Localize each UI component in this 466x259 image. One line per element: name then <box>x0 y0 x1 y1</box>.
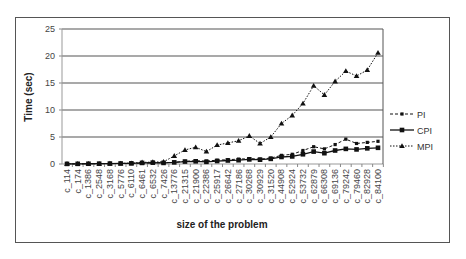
x-tick-label: c_2548 <box>94 169 104 199</box>
small-square-marker <box>323 147 326 150</box>
legend-item-pi: PI <box>390 110 426 120</box>
square-marker <box>322 151 327 156</box>
x-axis-ticks: c_114c_174c_1386c_2548c_3168c_5776c_6110… <box>62 164 383 204</box>
legend-label: CPI <box>417 126 432 136</box>
square-marker <box>268 157 273 162</box>
legend-label: PI <box>417 110 426 120</box>
x-tick-label: c_21315 <box>180 169 190 204</box>
square-marker <box>215 159 220 164</box>
square-marker <box>172 160 177 165</box>
small-square-marker <box>334 143 337 146</box>
x-tick-label: c_82928 <box>362 169 372 204</box>
square-marker <box>236 158 241 163</box>
small-square-marker <box>301 149 304 152</box>
square-marker <box>247 157 252 162</box>
x-tick-label: c_62879 <box>309 169 319 204</box>
square-marker <box>354 147 359 152</box>
triangle-marker <box>364 67 370 72</box>
x-tick-label: c_52924 <box>287 169 297 204</box>
y-axis-title: Time (sec) <box>23 72 34 121</box>
triangle-marker <box>279 121 285 126</box>
square-marker <box>258 157 263 162</box>
square-marker <box>204 160 209 165</box>
square-marker <box>193 159 198 164</box>
square-marker <box>290 154 295 159</box>
triangle-marker <box>343 68 349 73</box>
square-marker <box>279 155 284 160</box>
y-tick-label: 20 <box>45 51 55 61</box>
x-tick-label: c_7426 <box>159 169 169 199</box>
triangle-marker <box>247 133 253 138</box>
square-marker <box>333 148 338 153</box>
y-tick-label: 15 <box>45 78 55 88</box>
square-marker <box>311 149 316 154</box>
triangle-marker <box>300 101 306 106</box>
triangle-marker <box>214 142 220 147</box>
y-tick-label: 10 <box>45 105 55 115</box>
x-tick-label: c_6461 <box>137 169 147 199</box>
x-tick-label: c_66308 <box>319 169 329 204</box>
y-tick-label: 0 <box>50 159 55 169</box>
small-square-marker <box>376 140 379 143</box>
legend-item-cpi: CPI <box>390 126 432 136</box>
series-line <box>67 53 378 164</box>
legend-item-mpi: MPI <box>390 142 433 152</box>
series-line <box>67 148 378 164</box>
legend-label: MPI <box>417 142 433 152</box>
x-axis-title: size of the problem <box>176 219 267 230</box>
x-tick-label: c_6110 <box>126 169 136 198</box>
square-marker <box>301 152 306 157</box>
x-tick-label: c_69136 <box>330 169 340 204</box>
square-marker <box>365 146 370 151</box>
triangle-marker <box>193 144 199 149</box>
x-tick-label: c_79460 <box>352 169 362 204</box>
x-tick-label: c_31520 <box>266 169 276 204</box>
triangle-marker <box>332 79 338 84</box>
small-square-marker <box>366 141 369 144</box>
x-tick-label: c_3168 <box>105 169 115 199</box>
x-tick-label: c_30268 <box>244 169 254 204</box>
x-tick-label: c_1386 <box>83 169 93 199</box>
square-marker <box>400 128 405 133</box>
triangle-marker <box>375 50 381 55</box>
x-tick-label: c_6532 <box>148 169 158 199</box>
x-tick-label: c_22386 <box>201 169 211 204</box>
y-tick-label: 5 <box>50 132 55 142</box>
triangle-marker <box>311 83 317 88</box>
x-tick-label: c_27186 <box>234 169 244 204</box>
x-tick-label: c_26642 <box>223 169 233 204</box>
x-tick-label: c_44908 <box>276 169 286 204</box>
x-tick-label: c_53732 <box>298 169 308 204</box>
square-marker <box>183 159 188 164</box>
x-tick-label: c_84100 <box>373 169 383 204</box>
x-tick-label: c_79242 <box>341 169 351 204</box>
x-tick-label: c_13776 <box>169 169 179 204</box>
small-square-marker <box>344 138 347 141</box>
triangle-marker <box>257 141 263 146</box>
square-marker <box>376 146 381 151</box>
x-tick-label: c_21900 <box>191 169 201 204</box>
x-tick-label: c_5776 <box>116 169 126 199</box>
square-marker <box>344 147 349 152</box>
small-square-marker <box>355 142 358 145</box>
y-axis-ticks: 0510152025 <box>45 24 55 169</box>
legend: PICPIMPI <box>390 110 433 152</box>
small-square-marker <box>312 145 315 148</box>
data-series <box>64 50 381 166</box>
x-tick-label: c_174 <box>73 169 83 194</box>
x-tick-label: c_25917 <box>212 169 222 204</box>
square-marker <box>226 158 231 163</box>
y-tick-label: 25 <box>45 24 55 34</box>
line-chart: 0510152025 c_114c_174c_1386c_2548c_3168c… <box>0 0 466 259</box>
x-tick-label: c_114 <box>62 169 72 193</box>
x-tick-label: c_30929 <box>255 169 265 204</box>
triangle-marker <box>171 153 177 158</box>
small-square-marker <box>400 112 403 115</box>
